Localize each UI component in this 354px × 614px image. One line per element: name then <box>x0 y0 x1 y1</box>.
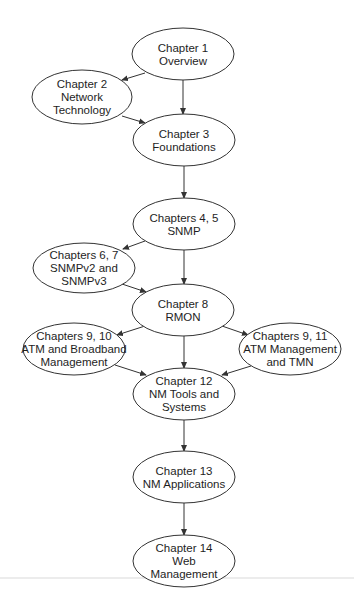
node-ch2: Chapter 2NetworkTechnology <box>32 70 132 124</box>
edge-arrow-ch4_5-to-ch6_7 <box>123 241 145 249</box>
node-label-line: Management <box>40 356 108 368</box>
node-label-line: SNMP <box>167 225 201 237</box>
edge-arrow-ch9_11-to-ch12 <box>222 366 251 375</box>
node-label-line: Management <box>150 568 218 580</box>
node-ch4-5: Chapters 4, 5SNMP <box>133 198 235 250</box>
node-label-line: Overview <box>159 55 208 67</box>
edge-arrow-ch8-to-ch9_11 <box>222 326 248 335</box>
node-label-line: SNMPv3 <box>61 275 106 287</box>
node-label-line: Chapter 14 <box>156 542 214 554</box>
chapter-dependency-diagram: Chapter 1OverviewChapter 2NetworkTechnol… <box>0 0 354 614</box>
node-label-line: NM Tools and <box>149 388 219 400</box>
node-ch9-11: Chapters 9, 11ATM Managementand TMN <box>239 323 341 375</box>
node-ch12: Chapter 12NM Tools andSystems <box>133 368 235 420</box>
node-label-line: Chapter 12 <box>156 375 213 387</box>
node-label-line: Chapter 8 <box>158 298 209 310</box>
node-label-line: Chapters 6, 7 <box>49 249 118 261</box>
node-label-line: SNMPv2 and <box>50 262 118 274</box>
node-ch1: Chapter 1Overview <box>132 28 234 80</box>
edge-arrow-ch8-to-ch9_10 <box>117 326 145 335</box>
node-label-line: Network <box>61 91 103 103</box>
edge-arrow-ch6_7-to-ch8 <box>122 284 146 292</box>
node-ch6-7: Chapters 6, 7SNMPv2 andSNMPv3 <box>33 243 135 293</box>
node-label-line: Systems <box>162 401 206 413</box>
node-ch8: Chapter 8RMON <box>132 284 234 336</box>
node-ch9-10: Chapters 9, 10ATM and BroadbandManagemen… <box>21 323 126 375</box>
node-label-line: Chapter 3 <box>159 128 210 140</box>
node-label-line: Chapters 9, 10 <box>36 330 111 342</box>
nodes: Chapter 1OverviewChapter 2NetworkTechnol… <box>21 28 341 587</box>
edge-arrow-ch2-to-ch3 <box>122 116 145 123</box>
node-label-line: NM Applications <box>143 478 226 490</box>
node-ch3: Chapter 3Foundations <box>133 114 235 166</box>
node-label-line: Chapter 2 <box>57 78 108 90</box>
node-label-line: ATM and Broadband <box>21 343 126 355</box>
node-label-line: Chapters 4, 5 <box>149 212 218 224</box>
node-label-line: ATM Management <box>243 343 338 355</box>
node-ch13: Chapter 13NM Applications <box>133 451 235 503</box>
edge-arrow-ch1-to-ch2 <box>122 73 145 80</box>
node-label-line: Chapter 13 <box>156 465 213 477</box>
node-label-line: Web <box>172 555 195 567</box>
node-ch14: Chapter 14WebManagement <box>133 535 235 587</box>
node-label-line: Chapter 1 <box>158 42 209 54</box>
edge-arrow-ch9_10-to-ch12 <box>115 365 146 375</box>
node-label-line: Foundations <box>152 141 216 153</box>
node-label-line: and TMN <box>266 356 313 368</box>
node-label-line: Technology <box>53 104 111 116</box>
node-label-line: RMON <box>165 311 200 323</box>
node-label-line: Chapters 9, 11 <box>253 330 328 342</box>
